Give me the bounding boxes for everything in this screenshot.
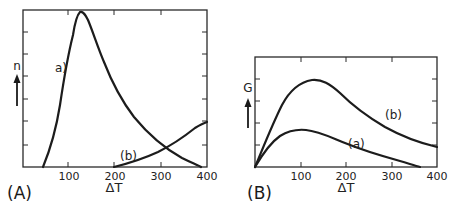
panel-a-tick-300: 300 — [151, 170, 172, 183]
panel-b-curve-a-label: (a) — [348, 137, 365, 151]
panel-b-tick-100: 100 — [291, 170, 312, 183]
panel-b-tick-400: 400 — [427, 170, 448, 183]
panel-a-tick-400: 400 — [197, 170, 218, 183]
panel-b-y-axis-label: G — [243, 81, 252, 95]
panel-b-curve-a — [255, 130, 420, 167]
panel-a-curve-a — [43, 12, 201, 167]
panel-a-curve-a-label: a) — [55, 61, 67, 75]
panel-a-x-axis-label: ΔT — [106, 180, 123, 195]
up-arrow-icon — [14, 74, 21, 106]
panel-b-axes-frame — [255, 57, 437, 167]
panel-b-curve-b — [255, 80, 437, 167]
panel-a-y-axis-label: n — [13, 59, 21, 73]
figure: 100 200 300 400 ΔT n a) (b) (A) — [0, 0, 461, 210]
panel-b-x-ticks — [301, 57, 392, 167]
panel-a-tick-100: 100 — [59, 170, 80, 183]
panel-a-label: (A) — [7, 183, 32, 203]
panel-b-curve-b-label: (b) — [385, 108, 402, 122]
panel-b-label: (B) — [247, 183, 272, 203]
up-arrow-icon — [245, 98, 252, 128]
panel-a: 100 200 300 400 ΔT n a) (b) (A) — [7, 10, 218, 203]
panel-a-curve-b-label: (b) — [120, 149, 137, 163]
panel-b-tick-300: 300 — [382, 170, 403, 183]
panel-a-x-ticks — [68, 10, 161, 167]
panel-b-x-axis-label: ΔT — [338, 180, 355, 195]
panel-b: 100 200 300 400 ΔT G (b) (a) (B) — [243, 57, 447, 203]
